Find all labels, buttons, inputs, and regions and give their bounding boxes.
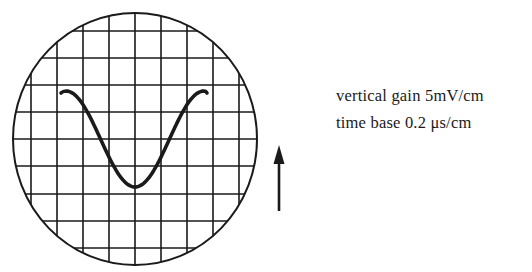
time-base-label: time base 0.2 μs/cm — [336, 113, 471, 133]
oscilloscope-diagram — [0, 0, 532, 272]
up-arrow-icon — [274, 145, 285, 211]
vertical-gain-label: vertical gain 5mV/cm — [336, 86, 484, 106]
